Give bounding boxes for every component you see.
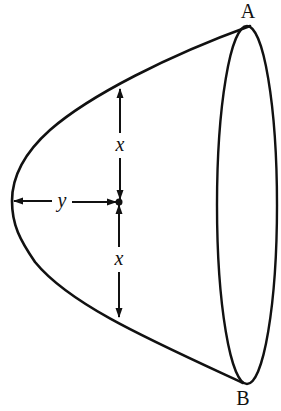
upper-x-label: x [115, 133, 125, 155]
axis-point [116, 199, 123, 206]
base-ellipse [217, 26, 277, 384]
parabola-curve [12, 26, 250, 383]
point-b-label: B [236, 387, 249, 409]
paraboloid-diagram: x x y A B [0, 0, 281, 411]
y-label: y [56, 189, 67, 212]
lower-x-label: x [114, 247, 124, 269]
point-a-label: A [241, 0, 256, 22]
